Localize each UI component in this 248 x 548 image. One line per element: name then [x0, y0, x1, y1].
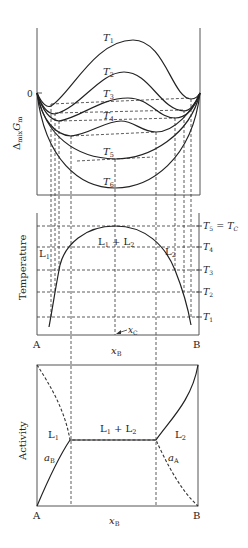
- gibbs-curve-T1: [37, 40, 200, 106]
- phase-xlabel: xB: [111, 345, 122, 358]
- vertical-guides: [51, 99, 191, 506]
- activity-aB-curve: [37, 365, 198, 506]
- gibbs-curve-T4: [37, 93, 200, 136]
- tangent-T3: [59, 118, 175, 121]
- tangent-T2: [55, 110, 184, 113]
- activity-left-end: A: [32, 510, 41, 521]
- gibbs-curve-T5: [37, 93, 200, 159]
- phase-panel: Temperature L1 L1 + L2 L2 xC T5 = TC T4 …: [17, 213, 239, 358]
- label-T5: T5: [103, 146, 114, 159]
- region-L1: L1: [39, 248, 50, 261]
- activity-aB-label: aB: [44, 452, 55, 465]
- activity-aA-label: aA: [168, 452, 179, 465]
- region-L2: L2: [165, 246, 176, 259]
- gibbs-panel: 0 ΔmixGm T1 T2 T3 T4 T5 T6: [11, 28, 200, 195]
- activity-region-L2: L2: [175, 429, 186, 442]
- activity-region-L1: L1: [48, 429, 59, 442]
- activity-xlabel: xB: [109, 515, 120, 528]
- svg-text:ΔmixGm: ΔmixGm: [11, 117, 24, 150]
- gibbs-curve-T2: [37, 72, 200, 114]
- temp-label-T5-Tc: T5 = TC: [203, 220, 239, 232]
- label-T3: T3: [103, 88, 114, 101]
- activity-ylabel: Activity: [17, 421, 28, 461]
- gibbs-curve-T6: [37, 93, 200, 188]
- activity-frame: [37, 365, 198, 506]
- phase-left-end: A: [32, 339, 41, 350]
- gibbs-zero-label: 0: [27, 89, 33, 99]
- miscibility-gap-diagram: 0 ΔmixGm T1 T2 T3 T4 T5 T6: [0, 0, 248, 548]
- phase-ylabel: Temperature: [17, 234, 28, 300]
- activity-right-end: B: [193, 510, 200, 521]
- gibbs-ylabel: ΔmixGm: [11, 117, 24, 150]
- label-T1: T1: [103, 32, 114, 45]
- critical-label: xC: [128, 325, 138, 336]
- temp-label-T2: T2: [203, 286, 213, 298]
- activity-aA-curve: [37, 365, 198, 506]
- activity-panel: Activity L1 L1 + L2 L2 aB aA A B xB: [17, 365, 200, 528]
- phase-right-end: B: [193, 339, 200, 350]
- activity-region-L1-L2: L1 + L2: [100, 423, 136, 436]
- temp-label-T4: T4: [203, 241, 213, 253]
- temp-label-T1: T1: [203, 311, 213, 323]
- temp-label-T3: T3: [203, 264, 213, 276]
